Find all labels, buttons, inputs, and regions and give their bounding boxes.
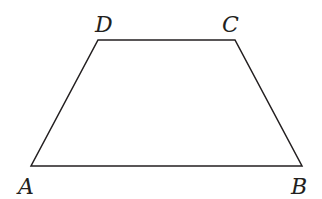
vertex-label-b: B <box>290 174 307 199</box>
vertex-label-a: A <box>16 174 34 199</box>
vertex-label-d: D <box>94 12 113 37</box>
vertex-label-c: C <box>222 12 239 37</box>
trapezoid-abcd <box>31 40 302 166</box>
trapezoid-diagram: D C A B <box>0 0 322 199</box>
